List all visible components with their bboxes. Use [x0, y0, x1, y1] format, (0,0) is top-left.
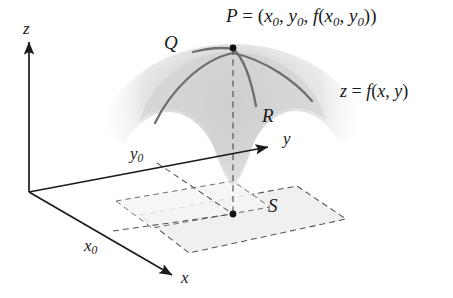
y0-tick-label: y0 — [130, 145, 143, 165]
eq-paren-close: ) — [402, 81, 408, 101]
point-R-label: R — [262, 106, 274, 125]
diagram-canvas — [0, 0, 453, 298]
P-equals: = — [242, 5, 253, 26]
P-paren-close: ) — [370, 5, 376, 26]
P-y-base: y — [289, 5, 297, 26]
point-P-marker — [230, 45, 237, 52]
P-sep-1: , — [279, 5, 289, 26]
y0-base: y — [130, 144, 138, 163]
eq-x: x — [377, 81, 385, 101]
point-Q-label: Q — [164, 33, 178, 52]
P-name: P — [226, 5, 238, 26]
eq-z: z — [340, 81, 347, 101]
y-axis-label: y — [283, 130, 291, 147]
P-fn-x-base: x — [325, 5, 333, 26]
x0-tick-label: x0 — [84, 237, 97, 257]
eq-y: y — [394, 81, 402, 101]
P-x-base: x — [264, 5, 272, 26]
x0-base: x — [84, 236, 92, 255]
P-sep-2: , — [303, 5, 313, 26]
z-axis-label: z — [23, 20, 30, 37]
eq-equals: = — [352, 81, 362, 101]
partial-derivative-diagram: z y x y0 x0 P = (x0, y0, f(x0, y0)) Q R … — [0, 0, 453, 298]
surface-equation-label: z = f(x, y) — [340, 82, 408, 100]
region-S-label: S — [268, 196, 278, 215]
y0-subscript: 0 — [138, 152, 144, 165]
eq-comma: , — [385, 81, 394, 101]
x-axis-label: x — [181, 269, 189, 286]
x0-subscript: 0 — [92, 244, 98, 257]
P-fn-sep: , — [339, 5, 349, 26]
point-P-label: P = (x0, y0, f(x0, y0)) — [226, 6, 376, 29]
base-point-marker — [230, 211, 237, 218]
